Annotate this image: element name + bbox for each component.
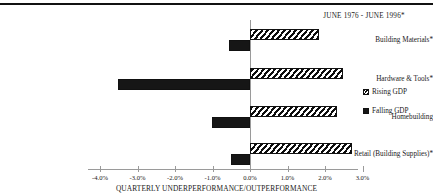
x-axis-tick-label: -1.0%: [193, 174, 233, 181]
legend-item-rising-gdp: Rising GDP: [363, 88, 409, 96]
x-axis-tick-label: -4.0%: [80, 174, 120, 181]
bar-rising-gdp: [250, 143, 352, 154]
x-axis-title: QUARTERLY UNDERPERFORMANCE/OUTPERFORMANC…: [0, 184, 433, 193]
bar-falling-gdp: [118, 79, 250, 90]
x-axis-tick-label: 0.0%: [230, 174, 270, 181]
legend-label-falling-gdp: Falling GDP: [372, 107, 409, 115]
x-axis-line: [88, 169, 358, 170]
x-axis-tick: [213, 166, 214, 172]
x-axis-tick: [100, 166, 101, 172]
bar-falling-gdp: [229, 40, 250, 51]
x-axis-tick-label: 3.0%: [343, 174, 383, 181]
x-axis-tick-label: 2.0%: [305, 174, 345, 181]
chart-container: JUNE 1976 - JUNE 1996* -4.0%-3.0%-2.0%-1…: [0, 0, 433, 196]
bar-rising-gdp: [250, 29, 319, 40]
legend-label-rising-gdp: Rising GDP: [372, 88, 407, 96]
x-axis-tick: [175, 166, 176, 172]
bar-falling-gdp: [212, 117, 250, 128]
x-axis-tick-label: 1.0%: [268, 174, 308, 181]
x-axis-tick: [325, 166, 326, 172]
x-axis-tick-label: -3.0%: [118, 174, 158, 181]
bar-rising-gdp: [250, 68, 343, 79]
x-axis-tick: [250, 166, 251, 172]
x-axis-tick-label: -2.0%: [155, 174, 195, 181]
chart-legend: Rising GDP Falling GDP: [363, 88, 409, 126]
legend-swatch-falling-gdp: [363, 108, 369, 114]
bar-rising-gdp: [250, 106, 337, 117]
x-axis-tick: [288, 166, 289, 172]
bar-falling-gdp: [231, 154, 250, 165]
x-axis-tick: [138, 166, 139, 172]
legend-swatch-rising-gdp: [363, 89, 369, 95]
x-axis-tick: [363, 166, 364, 172]
legend-item-falling-gdp: Falling GDP: [363, 107, 409, 115]
